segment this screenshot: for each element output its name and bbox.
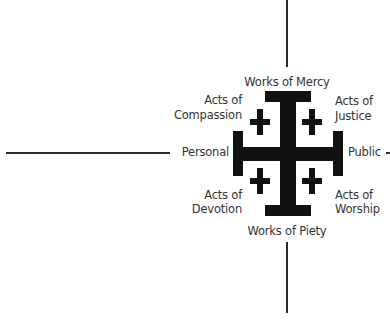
axis-line-bottom (286, 242, 288, 313)
label-acts-of-devotion-line1: Acts of (170, 188, 242, 203)
cross-horizontal-bar (233, 147, 343, 161)
label-acts-of-worship-line2: Worship (335, 202, 390, 217)
label-acts-of-compassion-line1: Acts of (170, 93, 242, 108)
axis-line-top (286, 0, 288, 67)
axis-line-left (6, 152, 170, 154)
label-acts-of-justice-line1: Acts of (335, 94, 390, 109)
label-personal: Personal (170, 145, 229, 160)
diagram-canvas: Works of Mercy Works of Piety Personal P… (0, 0, 390, 321)
label-works-of-mercy: Works of Mercy (238, 75, 336, 90)
label-acts-of-worship-line1: Acts of (335, 188, 390, 203)
cross-left-bar (233, 131, 243, 176)
label-public: Public (348, 145, 388, 160)
cross-bottom-bar (265, 205, 311, 216)
label-acts-of-compassion-line2: Compassion (170, 108, 242, 123)
label-works-of-piety: Works of Piety (238, 224, 336, 239)
label-acts-of-devotion-line2: Devotion (170, 202, 242, 217)
cross-right-bar (333, 131, 343, 176)
label-acts-of-justice-line2: Justice (335, 109, 390, 124)
